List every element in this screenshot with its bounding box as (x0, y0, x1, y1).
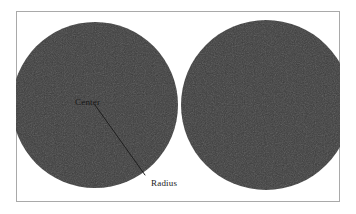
figure-container: Center Radius (0, 0, 356, 214)
center-label: Center (75, 97, 100, 107)
right-circle (181, 20, 351, 190)
circle-diagram: Center Radius (0, 0, 356, 214)
radius-label: Radius (151, 178, 177, 188)
